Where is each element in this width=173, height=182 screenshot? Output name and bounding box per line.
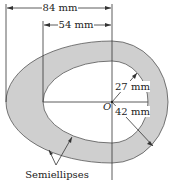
arrow-left-54 [44, 23, 50, 27]
radius-label-27: 27 mm [115, 81, 150, 92]
dimension-label-84: 84 mm [43, 2, 78, 13]
tube-cross-section-diagram: 84 mm 54 mm 27 mm 42 mm O Semiellipses [0, 0, 173, 182]
arrow-right-54 [105, 23, 111, 27]
dimension-label-54: 54 mm [59, 19, 94, 30]
arrow-right-84 [105, 6, 111, 10]
arrow-left-84 [7, 6, 13, 10]
radius-label-42: 42 mm [115, 106, 150, 117]
center-label: O [103, 101, 111, 112]
semiellipses-label: Semiellipses [25, 169, 89, 180]
